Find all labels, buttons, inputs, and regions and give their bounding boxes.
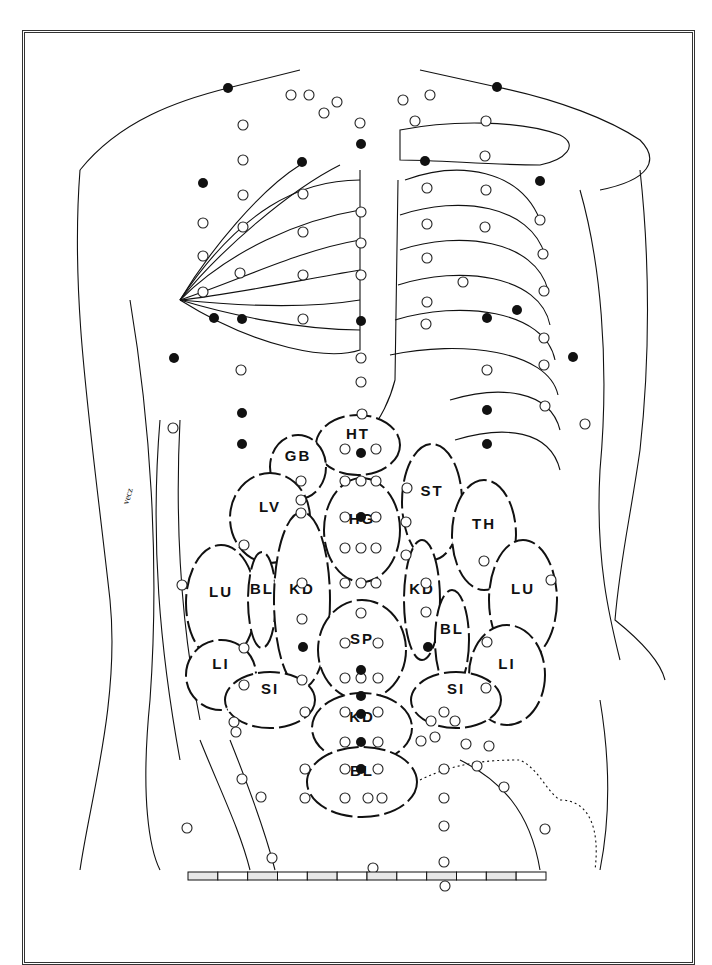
open-point xyxy=(377,793,387,803)
open-point xyxy=(286,90,296,100)
open-point xyxy=(540,401,550,411)
filled-point xyxy=(482,439,492,449)
open-point xyxy=(538,249,548,259)
open-point xyxy=(484,741,494,751)
open-point xyxy=(340,764,350,774)
zone-outline xyxy=(307,747,417,817)
open-point xyxy=(371,512,381,522)
open-point xyxy=(580,419,590,429)
filled-point xyxy=(198,178,208,188)
filled-point xyxy=(356,316,366,326)
open-point xyxy=(356,543,366,553)
open-point xyxy=(237,774,247,784)
open-point xyxy=(356,578,366,588)
open-point xyxy=(535,215,545,225)
zone-label: HT xyxy=(346,425,370,442)
open-point xyxy=(300,793,310,803)
open-point xyxy=(238,190,248,200)
filled-point xyxy=(356,139,366,149)
zone-outline xyxy=(324,478,400,582)
filled-point xyxy=(223,83,233,93)
open-point xyxy=(480,151,490,161)
open-point xyxy=(472,761,482,771)
zone-label: LU xyxy=(209,583,233,600)
open-point xyxy=(256,792,266,802)
open-point xyxy=(402,483,412,493)
open-point xyxy=(340,737,350,747)
zone-label: TH xyxy=(472,515,496,532)
zone-ht: HT xyxy=(316,415,400,475)
open-point xyxy=(401,550,411,560)
open-point xyxy=(422,253,432,263)
open-point xyxy=(355,118,365,128)
scale-segment xyxy=(397,872,427,880)
open-point xyxy=(198,251,208,261)
open-point xyxy=(298,189,308,199)
open-point xyxy=(356,608,366,618)
open-point xyxy=(296,495,306,505)
filled-point xyxy=(237,314,247,324)
open-point xyxy=(356,353,366,363)
open-point xyxy=(298,227,308,237)
open-point xyxy=(439,793,449,803)
open-point xyxy=(458,277,468,287)
zone-label: LV xyxy=(259,498,281,515)
open-point xyxy=(168,423,178,433)
open-point xyxy=(373,707,383,717)
open-point xyxy=(363,793,373,803)
zone-outline xyxy=(248,552,276,648)
open-point xyxy=(373,673,383,683)
open-point xyxy=(546,575,556,585)
open-point xyxy=(421,578,431,588)
zone-bl-center: BL xyxy=(307,747,417,817)
open-point xyxy=(357,409,367,419)
open-point xyxy=(300,764,310,774)
open-point xyxy=(481,683,491,693)
open-point xyxy=(229,717,239,727)
filled-point xyxy=(356,709,366,719)
open-point xyxy=(373,737,383,747)
open-point xyxy=(340,543,350,553)
open-point xyxy=(356,238,366,248)
open-point xyxy=(332,97,342,107)
zone-label: SI xyxy=(447,680,465,697)
open-point xyxy=(421,319,431,329)
scale-segment xyxy=(427,872,457,880)
open-point xyxy=(235,268,245,278)
open-point xyxy=(238,120,248,130)
open-point xyxy=(430,732,440,742)
open-point xyxy=(416,736,426,746)
open-point xyxy=(450,716,460,726)
open-point xyxy=(239,540,249,550)
open-point xyxy=(231,727,241,737)
open-point xyxy=(298,314,308,324)
open-point xyxy=(340,512,350,522)
open-point xyxy=(373,638,383,648)
open-point xyxy=(239,680,249,690)
open-point xyxy=(267,853,277,863)
open-point xyxy=(297,578,307,588)
open-point xyxy=(479,556,489,566)
open-point xyxy=(439,764,449,774)
filled-point xyxy=(568,352,578,362)
open-point xyxy=(340,673,350,683)
filled-point xyxy=(169,353,179,363)
open-point xyxy=(304,90,314,100)
zone-label: SP xyxy=(350,630,374,647)
scale-segment xyxy=(307,872,337,880)
filled-point xyxy=(482,313,492,323)
filled-point xyxy=(356,737,366,747)
open-point xyxy=(296,508,306,518)
open-point xyxy=(401,517,411,527)
zone-label: BL xyxy=(440,620,464,637)
open-point xyxy=(422,183,432,193)
open-point xyxy=(371,444,381,454)
filled-point xyxy=(237,408,247,418)
open-point xyxy=(300,707,310,717)
zone-hg: HG xyxy=(324,478,400,582)
open-point xyxy=(340,476,350,486)
open-point xyxy=(371,578,381,588)
filled-point xyxy=(356,512,366,522)
open-point xyxy=(340,793,350,803)
open-point xyxy=(481,116,491,126)
